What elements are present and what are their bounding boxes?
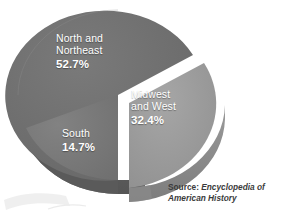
chart-canvas: North and Northeast 52.7% Midwest and We…	[0, 0, 289, 217]
source-title-line1: Encyclopedia of	[201, 182, 265, 192]
page-edge-artifact	[4, 193, 86, 210]
source-citation: Source: Encyclopedia ofAmerican History	[168, 182, 288, 204]
source-title-line2: American History	[168, 193, 237, 203]
source-prefix: Source:	[168, 182, 201, 192]
